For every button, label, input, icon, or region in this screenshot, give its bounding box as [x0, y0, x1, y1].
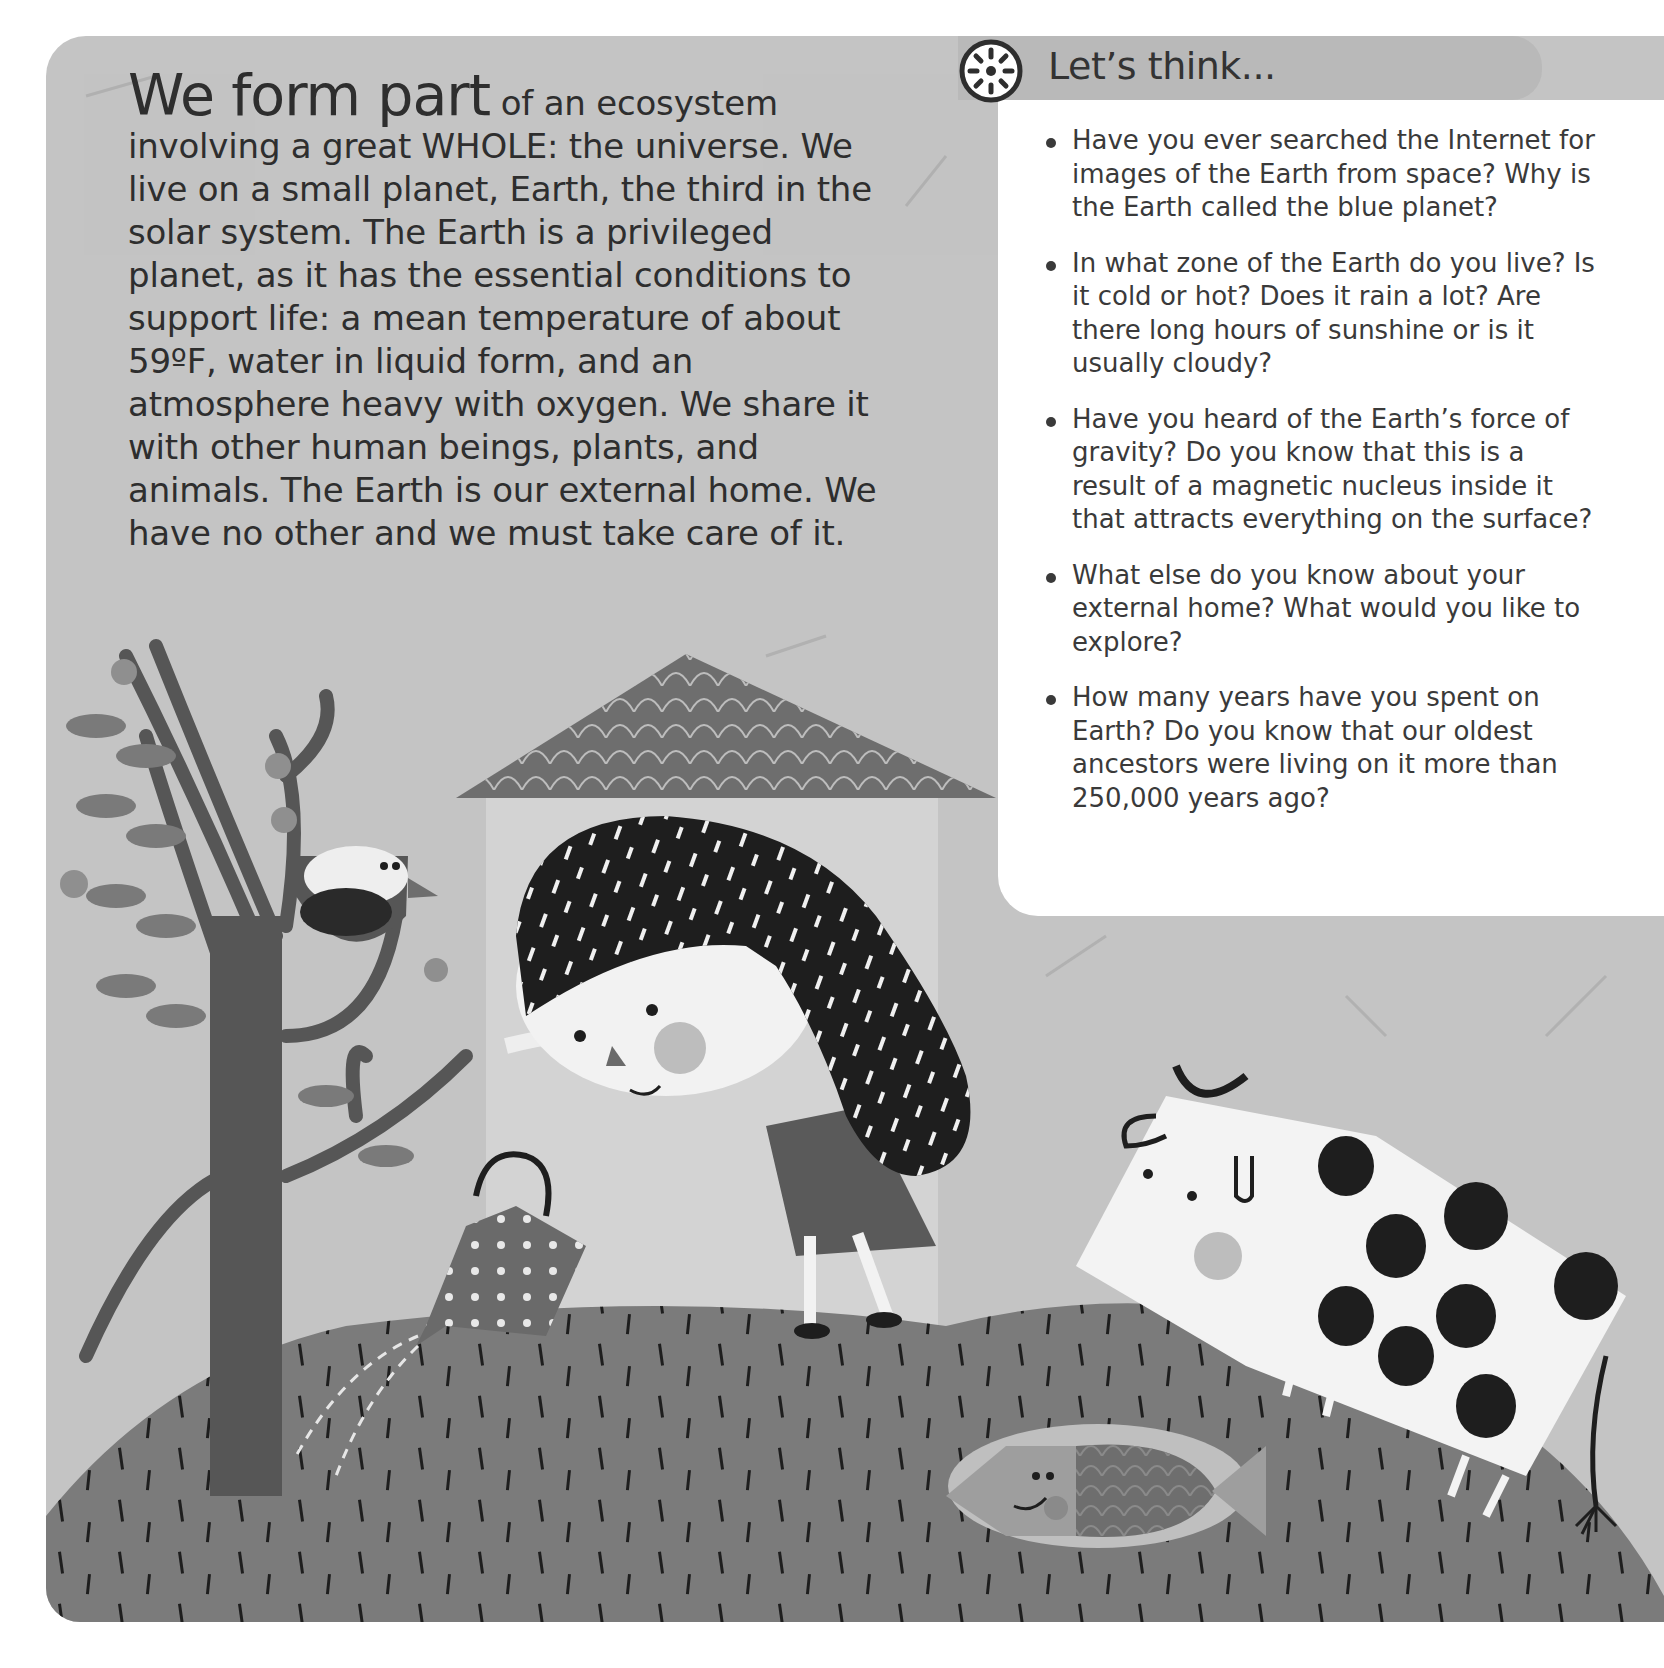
question-item: Have you heard of the Earth’s force of g…	[1044, 403, 1604, 537]
lets-think-title: Let’s think...	[1048, 44, 1276, 88]
question-item: How many years have you spent on Earth? …	[1044, 681, 1604, 815]
sun-wheel-icon	[958, 38, 1024, 104]
tree-trunk	[210, 916, 282, 1496]
intro-lead: We form part	[128, 62, 490, 128]
intro-body: of an ecosystem involving a great WHOLE:…	[128, 83, 876, 553]
intro-paragraph: We form part of an ecosystem involving a…	[128, 70, 888, 555]
bird-in-nest	[296, 846, 438, 942]
question-item: Have you ever searched the Internet for …	[1044, 124, 1604, 225]
question-list: Have you ever searched the Internet for …	[1044, 124, 1604, 837]
question-item: In what zone of the Earth do you live? I…	[1044, 247, 1604, 381]
question-item: What else do you know about your externa…	[1044, 559, 1604, 660]
